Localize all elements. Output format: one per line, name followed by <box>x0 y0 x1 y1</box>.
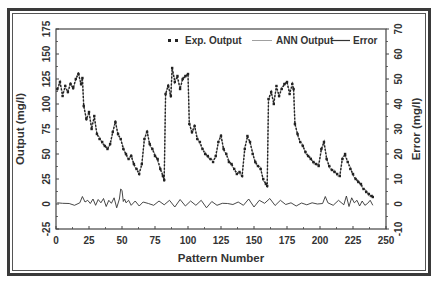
exp-marker <box>347 161 349 163</box>
exp-marker <box>193 125 195 127</box>
series-layer <box>56 67 374 208</box>
exp-marker <box>325 158 327 160</box>
exp-marker <box>164 93 166 95</box>
y-left-tick-label: 175 <box>41 20 52 37</box>
exp-marker <box>341 158 343 160</box>
exp-marker <box>283 83 285 85</box>
exp-marker <box>273 103 275 105</box>
exp-marker <box>344 153 346 155</box>
exp-marker <box>96 133 98 135</box>
exp-marker <box>233 168 235 170</box>
legend: Exp. Output ANN Output Error <box>168 35 378 46</box>
exp-marker <box>101 141 103 143</box>
exp-marker <box>266 185 268 187</box>
exp-marker <box>246 135 248 137</box>
exp-marker <box>80 83 82 85</box>
exp-marker <box>154 155 156 157</box>
y-right-tick-label: -10 <box>393 221 404 236</box>
exp-marker <box>83 105 85 107</box>
x-tick-label: 200 <box>312 235 329 246</box>
exp-marker <box>170 95 172 97</box>
exp-marker <box>188 123 190 125</box>
exp-marker <box>257 165 259 167</box>
exp-marker <box>339 175 341 177</box>
chart-canvas: 0255075100125150175200225250 -2502550751… <box>0 0 440 284</box>
exp-marker <box>323 141 325 143</box>
exp-marker <box>127 158 129 160</box>
exp-marker <box>331 169 333 171</box>
exp-marker <box>354 178 356 180</box>
exp-marker <box>122 148 124 150</box>
exp-marker <box>109 143 111 145</box>
legend-label-error: Error <box>353 35 378 46</box>
exp-marker <box>81 77 83 79</box>
exp-marker <box>56 88 58 90</box>
exp-marker <box>362 188 364 190</box>
exp-marker <box>187 73 189 75</box>
legend-label-ann: ANN Output <box>276 35 334 46</box>
exp-marker <box>98 138 100 140</box>
exp-marker <box>333 171 335 173</box>
exp-marker <box>328 165 330 167</box>
exp-marker <box>182 78 184 80</box>
x-tick-label: 0 <box>53 235 59 246</box>
exp-marker <box>104 145 106 147</box>
exp-marker <box>112 131 114 133</box>
exp-marker <box>69 83 71 85</box>
exp-marker <box>217 141 219 143</box>
exp-marker <box>251 153 253 155</box>
exp-marker <box>249 141 251 143</box>
exp-marker <box>302 145 304 147</box>
exp-marker <box>317 165 319 167</box>
y-left-tick-label: 100 <box>41 95 52 112</box>
y-right-axis-title: Error (mg/l) <box>410 98 422 161</box>
exp-marker <box>299 141 301 143</box>
legend-item-error: Error <box>331 35 378 46</box>
exp-marker <box>156 158 158 160</box>
x-axis-title: Pattern Number <box>178 252 265 264</box>
exp-marker <box>130 155 132 157</box>
x-tick-label: 25 <box>83 235 95 246</box>
y-left-tick-label: 150 <box>41 45 52 62</box>
legend-item-ann-output: ANN Output <box>252 35 334 46</box>
x-tick-label: 225 <box>345 235 362 246</box>
exp-marker <box>294 123 296 125</box>
exp-marker <box>72 87 74 89</box>
exp-marker <box>133 163 135 165</box>
exp-marker <box>59 81 61 83</box>
exp-marker <box>215 155 217 157</box>
exp-marker <box>236 173 238 175</box>
series-ann-output <box>57 68 373 196</box>
exp-marker <box>159 168 161 170</box>
exp-marker <box>310 158 312 160</box>
exp-marker <box>117 133 119 135</box>
exp-marker <box>61 95 63 97</box>
y-left-tick-label: -25 <box>41 221 52 236</box>
exp-marker <box>368 193 370 195</box>
x-tick-label: 100 <box>180 235 197 246</box>
x-tick-label: 150 <box>246 235 263 246</box>
exp-marker <box>360 183 362 185</box>
exp-marker <box>320 148 322 150</box>
exp-marker <box>77 73 79 75</box>
y-left-tick-label: 25 <box>41 173 52 185</box>
y-right-tick-label: 0 <box>393 201 404 207</box>
exp-marker <box>270 91 272 93</box>
y-left-tick-label: 0 <box>41 201 52 207</box>
exp-marker <box>138 173 140 175</box>
exp-marker <box>191 131 193 133</box>
exp-marker <box>88 111 90 113</box>
series-error <box>57 189 373 208</box>
y-left-axis-title: Output (mg/l) <box>14 93 26 165</box>
exp-marker <box>207 155 209 157</box>
y-right-tick-label: 40 <box>393 98 404 110</box>
exp-marker <box>135 168 137 170</box>
exp-marker <box>75 78 77 80</box>
exp-marker <box>315 163 317 165</box>
exp-marker <box>241 175 243 177</box>
exp-marker <box>288 93 290 95</box>
exp-marker <box>176 75 178 77</box>
exp-marker <box>64 85 66 87</box>
exp-marker <box>220 135 222 137</box>
exp-marker <box>307 155 309 157</box>
